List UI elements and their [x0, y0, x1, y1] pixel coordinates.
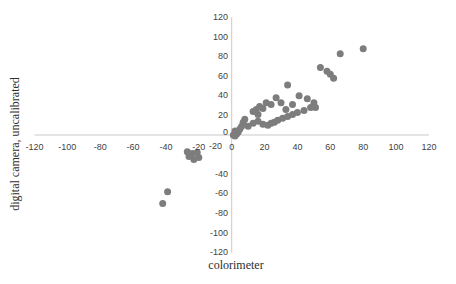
- y-tick-label: 40: [178, 90, 228, 101]
- y-tick-label: -120: [178, 247, 228, 258]
- y-tick-label: 100: [178, 32, 228, 43]
- data-point: [268, 101, 275, 108]
- y-tick-label: 20: [178, 110, 228, 121]
- x-tick-label: 120: [409, 142, 449, 153]
- data-point: [312, 104, 319, 111]
- data-point: [195, 154, 202, 161]
- data-point: [337, 50, 344, 57]
- data-point: [360, 45, 367, 52]
- data-point: [284, 82, 291, 89]
- data-point: [294, 109, 301, 116]
- data-point: [159, 200, 166, 207]
- y-tick-label: 0: [178, 127, 228, 138]
- y-tick-label: -100: [178, 228, 228, 239]
- y-tick-label: -60: [178, 188, 228, 199]
- data-point: [241, 116, 248, 123]
- data-point: [278, 99, 285, 106]
- data-point: [255, 111, 262, 118]
- y-tick-label: 120: [178, 12, 228, 23]
- y-tick-label: -20: [172, 141, 222, 152]
- x-axis-title: colorimeter: [208, 258, 263, 273]
- y-tick-label: -80: [178, 208, 228, 219]
- y-axis-title: digital camera, uncalibrated: [8, 77, 23, 211]
- data-point: [282, 106, 289, 113]
- data-point: [330, 75, 337, 82]
- data-point: [164, 188, 171, 195]
- data-point: [301, 107, 308, 114]
- y-tick-label: -40: [178, 169, 228, 180]
- data-point: [317, 64, 324, 71]
- y-tick-label: 60: [178, 71, 228, 82]
- data-point: [304, 95, 311, 102]
- data-point: [296, 92, 303, 99]
- data-point: [289, 101, 296, 108]
- scatter-chart: -120-100-80-60-40-2002040608010012012010…: [0, 0, 456, 284]
- y-tick-label: 80: [178, 51, 228, 62]
